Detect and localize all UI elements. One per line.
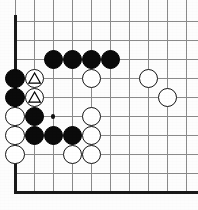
white-stone[interactable] [82,126,101,145]
black-stone[interactable] [63,50,82,69]
black-stone[interactable] [82,50,101,69]
white-stone[interactable] [5,145,24,164]
go-board-figure [0,0,198,210]
white-stone[interactable] [63,145,82,164]
black-stone[interactable] [25,107,44,126]
black-stone[interactable] [63,126,82,145]
black-stone[interactable] [44,50,63,69]
white-stone[interactable] [5,126,24,145]
triangle-marker-shape [28,73,40,83]
star-point [51,114,55,118]
white-stone[interactable] [139,69,158,88]
black-stone[interactable] [101,50,120,69]
triangle-marker-icon [25,69,44,88]
black-stone[interactable] [5,88,24,107]
black-stone[interactable] [25,126,44,145]
black-stone[interactable] [5,69,24,88]
triangle-marker-shape [28,92,40,102]
white-stone[interactable] [82,107,101,126]
white-stone[interactable] [82,69,101,88]
white-stone[interactable] [5,107,24,126]
triangle-marker-icon [25,88,44,107]
black-stone[interactable] [44,126,63,145]
